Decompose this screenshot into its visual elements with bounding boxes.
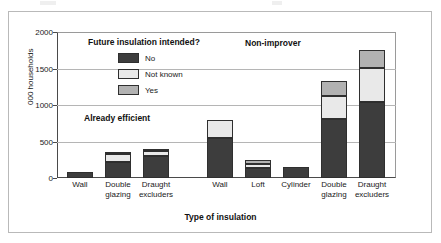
bar-cylinder-non-improver[interactable] xyxy=(283,167,309,178)
annotation-non-improver: Non-improver xyxy=(245,38,301,48)
legend-label-yes: Yes xyxy=(145,85,158,96)
legend-swatch-yes xyxy=(118,85,139,95)
annotation-already-efficient: Already efficient xyxy=(84,113,150,123)
bar-segment-no xyxy=(67,172,93,178)
bar-double-glazing-non-improver[interactable] xyxy=(321,81,347,178)
bar-segment-no xyxy=(321,119,347,178)
bar-segment-yes xyxy=(143,149,169,151)
bar-segment-no xyxy=(105,162,131,178)
bar-segment-not-known xyxy=(359,68,385,102)
bar-segment-not-known xyxy=(105,154,131,162)
bar-wall-non-improver[interactable] xyxy=(207,120,233,178)
legend-label-no: No xyxy=(145,53,155,64)
bar-segment-not-known xyxy=(143,151,169,156)
bar-segment-no xyxy=(359,102,385,178)
legend-swatch-not-known xyxy=(118,69,139,79)
x-label-draught-excluders-non-improver: Draught excluders xyxy=(344,180,400,199)
bar-loft-non-improver[interactable] xyxy=(245,160,271,178)
bar-draught-excluders-non-improver[interactable] xyxy=(359,50,385,178)
legend-swatch-no xyxy=(118,53,139,63)
x-axis-tick-labels: Wall Double glazing Draught excluders Wa… xyxy=(57,180,396,210)
bar-segment-not-known xyxy=(245,164,271,168)
legend-title: Future insulation intended? xyxy=(88,37,200,47)
bar-segment-not-known xyxy=(321,96,347,119)
chart-figure: 2000 1500 1000 500 0 000 households xyxy=(0,0,441,243)
bar-segment-yes xyxy=(245,160,271,164)
bar-draught-excluders-already-efficient[interactable] xyxy=(143,149,169,178)
x-label-draught-excluders-already-efficient: Draught excluders xyxy=(128,180,184,199)
bar-segment-yes xyxy=(321,81,347,96)
bar-segment-no xyxy=(207,138,233,178)
bar-segment-no xyxy=(143,156,169,178)
plot-area: Already efficient Non-improver Future in… xyxy=(57,32,396,178)
bar-segment-yes xyxy=(105,152,131,154)
x-axis-title: Type of insulation xyxy=(0,212,441,222)
bar-segment-no xyxy=(245,168,271,178)
bar-wall-already-efficient[interactable] xyxy=(67,172,93,178)
legend-label-not-known: Not known xyxy=(145,69,183,80)
bar-segment-no xyxy=(283,167,309,178)
y-axis-title: 000 households xyxy=(26,49,35,106)
scan-artifact xyxy=(0,0,441,9)
bar-segment-yes xyxy=(359,50,385,68)
bar-segment-not-known xyxy=(207,120,233,138)
gridline-1500 xyxy=(57,69,396,70)
bar-double-glazing-already-efficient[interactable] xyxy=(105,153,131,178)
